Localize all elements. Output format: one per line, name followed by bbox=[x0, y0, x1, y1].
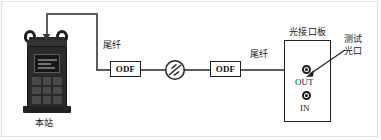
odf-box-right: ODF bbox=[210, 61, 241, 77]
pigtail-label-right: 尾纤 bbox=[250, 49, 269, 60]
odf-label-right: ODF bbox=[216, 64, 236, 74]
keypad-key bbox=[43, 96, 52, 104]
instrument-keypad bbox=[32, 77, 62, 104]
in-port-label: IN bbox=[300, 103, 310, 113]
pigtail-label-left: 尾纤 bbox=[103, 40, 122, 51]
keypad-key bbox=[32, 77, 41, 85]
fiber-test-diagram: 本站 尾纤 ODF ODF 尾纤 光接口板 OUT IN bbox=[0, 0, 381, 140]
keypad-key bbox=[43, 87, 52, 95]
keypad-key bbox=[53, 87, 62, 95]
keypad-key bbox=[32, 96, 41, 104]
odf-label-left: ODF bbox=[116, 64, 136, 74]
wire-attenuator-to-odf bbox=[185, 69, 211, 71]
test-port-label-line2: 光口 bbox=[344, 46, 363, 57]
station-label: 本站 bbox=[35, 118, 54, 129]
wire-down-to-odf bbox=[96, 13, 98, 70]
in-port bbox=[302, 91, 311, 100]
odf-box-left: ODF bbox=[110, 61, 141, 77]
keypad-key bbox=[32, 87, 41, 95]
interface-board-label: 光接口板 bbox=[289, 27, 326, 38]
keypad-key bbox=[53, 77, 62, 85]
test-port-label-line1: 测试 bbox=[344, 34, 363, 45]
wire-into-odf-left bbox=[96, 69, 110, 71]
instrument-display bbox=[34, 54, 60, 73]
keypad-key bbox=[53, 96, 62, 104]
wire-odf-to-attenuator bbox=[141, 69, 165, 71]
optical-attenuator-icon bbox=[164, 59, 186, 81]
instrument-base bbox=[23, 106, 71, 113]
keypad-key bbox=[43, 77, 52, 85]
wire-top-run bbox=[46, 13, 98, 15]
callout-leader-icon bbox=[300, 47, 348, 80]
connector-arrow-icon bbox=[41, 30, 52, 42]
